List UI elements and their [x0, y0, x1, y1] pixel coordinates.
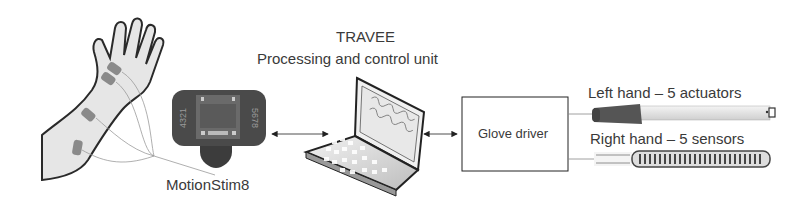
flex-sensor-icon	[594, 151, 770, 167]
right-hand-label: Right hand – 5 sensors	[590, 130, 744, 147]
stimulator-label: MotionStim8	[166, 176, 249, 193]
linear-actuator-icon	[592, 104, 775, 124]
svg-text:5678: 5678	[250, 108, 260, 128]
processing-unit-subtitle: Processing and control unit	[257, 50, 438, 67]
laptop-icon	[306, 78, 424, 196]
processing-unit-title: TRAVEE	[336, 28, 395, 45]
glove-driver-label: Glove driver	[478, 126, 548, 141]
diagram-canvas: 4321 5678	[0, 0, 806, 207]
stimulator-device-icon: 4321 5678	[172, 90, 266, 168]
left-hand-label: Left hand – 5 actuators	[588, 84, 741, 101]
svg-text:4321: 4321	[178, 108, 188, 128]
